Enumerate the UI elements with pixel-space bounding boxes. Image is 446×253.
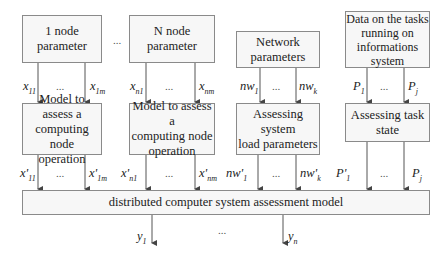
label-nwk-prime: nw'k (300, 166, 321, 183)
assessment-model-box: distributed computer system assessment m… (22, 190, 430, 215)
label-p1-prime: P'1 (336, 166, 350, 183)
box-text: running on (346, 26, 428, 40)
ellipsis: ... (56, 80, 64, 92)
box-text: Model to assess a (130, 99, 214, 129)
ellipsis: ... (380, 80, 388, 92)
box-text: Network (251, 35, 306, 50)
box-text: computing node (23, 122, 101, 152)
node-n-assessment-model-box: Model to assess acomputing nodeoperation (129, 103, 215, 155)
task-state-assessment-box: Assessing taskstate (345, 103, 430, 142)
ellipsis: ... (218, 224, 226, 236)
ellipsis: ... (56, 167, 64, 179)
node-n-parameter-box: N nodeparameter (129, 15, 215, 63)
label-xnm-prime: x'nm (199, 166, 217, 183)
ellipsis-between-nodes: ... (113, 34, 121, 46)
network-parameters-box: Networkparameters (236, 31, 320, 68)
box-text: load parameters (237, 137, 319, 152)
box-text: N node (147, 24, 197, 39)
label-xn1: xn1 (130, 79, 144, 96)
task-data-box: Data on the tasksrunning oninformationss… (345, 11, 430, 68)
box-text: operation (23, 152, 101, 167)
label-x1m-prime: x'1m (89, 166, 107, 183)
label-x11-prime: x'11 (20, 166, 36, 183)
box-text: parameter (147, 39, 197, 54)
system-load-assessment-box: Assessing systemload parameters (236, 103, 320, 155)
label-nw1: nw1 (240, 79, 259, 96)
box-text: operation (130, 144, 214, 159)
label-nw1-prime: nw'1 (226, 166, 247, 183)
box-text: parameter (37, 39, 87, 54)
box-text: Assessing system (237, 107, 319, 137)
ellipsis: ... (165, 80, 173, 92)
box-text: state (351, 123, 424, 138)
box-text: Model to assess a (23, 92, 101, 122)
box-text: 1 node (37, 24, 87, 39)
box-text: computing node (130, 129, 214, 144)
box-text: Data on the tasks (346, 12, 428, 26)
node-1-assessment-model-box: Model to assess acomputing nodeoperation (22, 103, 102, 155)
box-text: Assessing task (351, 108, 424, 123)
label-y1: y1 (137, 229, 147, 246)
node-1-parameter-box: 1 nodeparameter (22, 15, 102, 63)
ellipsis: ... (380, 167, 388, 179)
label-yn: yn (288, 229, 298, 246)
box-text: informations (346, 40, 428, 54)
ellipsis: ... (272, 167, 280, 179)
label-xnm: xnm (199, 79, 214, 96)
box-text: system (346, 54, 428, 68)
label-xn1-prime: x'n1 (121, 166, 137, 183)
ellipsis: ... (272, 80, 280, 92)
label-pj: Pj (408, 79, 418, 96)
box-text: distributed computer system assessment m… (109, 195, 344, 210)
ellipsis: ... (165, 167, 173, 179)
label-p1: P1 (353, 79, 365, 96)
label-nwk: nwk (299, 79, 317, 96)
box-text: parameters (251, 50, 306, 65)
label-pj-out: Pj (412, 166, 422, 183)
